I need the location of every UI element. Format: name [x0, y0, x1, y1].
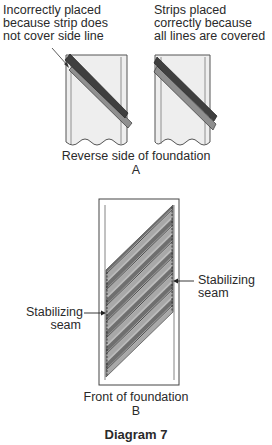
foundation-incorrect [52, 48, 132, 145]
label-line: seam [26, 319, 81, 332]
left-stabilizing-seam-label: Stabilizing seam [26, 306, 81, 332]
panel-a-label: A [0, 164, 272, 177]
panel-a-caption: Reverse side of foundation [0, 150, 272, 163]
figure-title: Diagram 7 [0, 428, 272, 441]
right-stabilizing-seam-label: Stabilizing seam [198, 274, 255, 300]
foundation-front [84, 195, 194, 396]
label-line: seam [198, 287, 255, 300]
diagram-artwork [0, 0, 272, 445]
panel-b-caption: Front of foundation [0, 391, 272, 404]
foundation-correct [154, 55, 217, 145]
panel-b-label: B [0, 405, 272, 418]
